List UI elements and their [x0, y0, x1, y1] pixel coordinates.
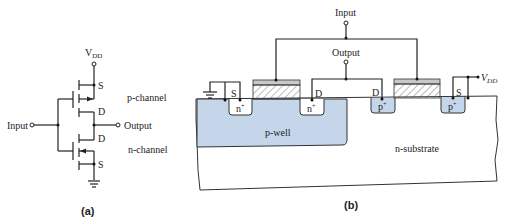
nmos-drain-label: D — [315, 88, 322, 99]
output-label-b: Output — [332, 47, 360, 58]
output-terminal-b — [344, 60, 348, 64]
n-channel-label: n-channel — [128, 144, 168, 155]
n-source-label: S — [98, 159, 104, 170]
n-substrate-label: n-substrate — [395, 143, 439, 154]
output-terminal-a — [116, 123, 120, 127]
nmos-source-label: S — [231, 88, 237, 99]
vdd-label-a: VDD — [85, 47, 102, 60]
caption-b: (b) — [344, 199, 358, 211]
schematic-a: VDD Input — [7, 47, 168, 217]
input-label-a: Input — [7, 120, 28, 131]
output-label-a: Output — [124, 120, 152, 131]
input-terminal-b — [344, 21, 348, 25]
p-channel-label: p-channel — [127, 92, 167, 103]
cmos-inverter-figure: VDD Input — [0, 0, 508, 224]
input-terminal-a — [30, 123, 34, 127]
cross-section-b: Input Output VDD S D D S — [196, 7, 498, 211]
n-drain-label: D — [98, 133, 105, 144]
input-label-b: Input — [335, 7, 356, 18]
p-well-label: p-well — [265, 127, 291, 138]
pmos-source-label: S — [456, 87, 462, 98]
nmos-gate-oxide — [253, 85, 300, 99]
pmos-drain-label: D — [372, 87, 379, 98]
pmos-gate-oxide — [394, 84, 440, 98]
caption-a: (a) — [81, 205, 95, 217]
vdd-label-b: VDD — [481, 72, 497, 85]
vdd-terminal-a — [92, 62, 96, 66]
p-source-label: S — [98, 80, 104, 91]
p-drain-label: D — [98, 106, 105, 117]
